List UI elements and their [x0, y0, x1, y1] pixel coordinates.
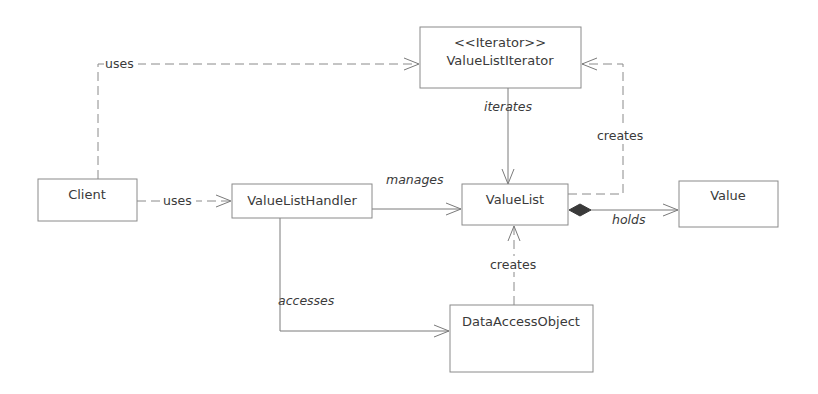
relation-label-accesses: accesses	[278, 293, 335, 308]
class-client[interactable]: Client	[38, 179, 137, 221]
relation-label-iterates: iterates	[484, 99, 532, 114]
class-name: DataAccessObject	[462, 314, 580, 329]
class-name: ValueList	[486, 192, 544, 207]
relation-dao-creates-valuelist: creates	[489, 226, 541, 305]
relation-iterator-iterates-valuelist: iterates	[484, 88, 532, 184]
relation-valuelist-holds-value: holds	[569, 204, 678, 227]
relation-label-manages: manages	[386, 172, 444, 187]
class-data-access-object[interactable]: DataAccessObject	[450, 305, 593, 372]
class-value-list-handler[interactable]: ValueListHandler	[232, 184, 372, 218]
relation-label-creates-bottom: creates	[490, 257, 536, 272]
class-name: Value	[710, 188, 746, 203]
relation-label-creates-right: creates	[597, 128, 643, 143]
composition-diamond-icon	[569, 204, 591, 216]
relation-handler-manages-valuelist: manages	[372, 172, 461, 215]
class-name: ValueListHandler	[247, 193, 357, 208]
relation-label-holds: holds	[612, 212, 646, 227]
relation-handler-accesses-dao: accesses	[278, 218, 449, 337]
relation-label-uses-middle: uses	[163, 193, 192, 208]
relation-client-uses-handler: uses	[137, 193, 231, 208]
class-name: Client	[68, 187, 106, 202]
uml-class-diagram: uses uses manages iterates creates holds	[0, 0, 818, 394]
class-value-list-iterator[interactable]: <<Iterator>> ValueListIterator	[420, 27, 581, 88]
class-stereotype: <<Iterator>>	[454, 35, 546, 50]
relation-client-uses-iterator: uses	[98, 56, 419, 179]
relation-label-uses-top: uses	[105, 56, 134, 71]
class-value[interactable]: Value	[679, 181, 778, 227]
class-value-list[interactable]: ValueList	[462, 184, 568, 225]
class-name: ValueListIterator	[446, 53, 554, 68]
